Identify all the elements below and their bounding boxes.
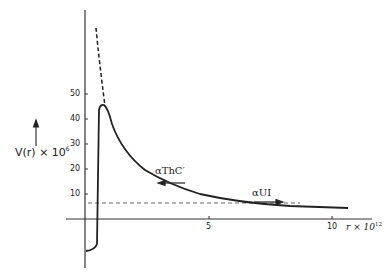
coulomb-dashed-curve xyxy=(96,28,105,106)
annotation-thc: αThC′ xyxy=(155,166,185,176)
x-axis-label-exp: 12 xyxy=(375,221,382,227)
y-axis-label: V(r) × 106 xyxy=(15,146,70,158)
y-axis-label-exp: 6 xyxy=(66,145,70,152)
potential-plot xyxy=(0,0,390,276)
x-tick-10: 10 xyxy=(327,223,337,231)
y-axis-label-text: V(r) × 10 xyxy=(15,146,66,159)
y-tick-10: 10 xyxy=(70,190,80,198)
x-axis-label-text: r × 10 xyxy=(346,222,375,232)
potential-curve xyxy=(86,105,348,251)
x-tick-5: 5 xyxy=(206,223,211,231)
y-tick-30: 30 xyxy=(70,140,80,148)
y-tick-20: 20 xyxy=(70,165,80,173)
y-label-up-arrow xyxy=(34,120,39,146)
annotation-ui: αUI xyxy=(252,188,271,198)
thc-arrow-left xyxy=(158,181,185,186)
y-tick-40: 40 xyxy=(70,115,80,123)
y-tick-50: 50 xyxy=(70,90,80,98)
x-axis-label: r × 1012 xyxy=(346,222,382,232)
